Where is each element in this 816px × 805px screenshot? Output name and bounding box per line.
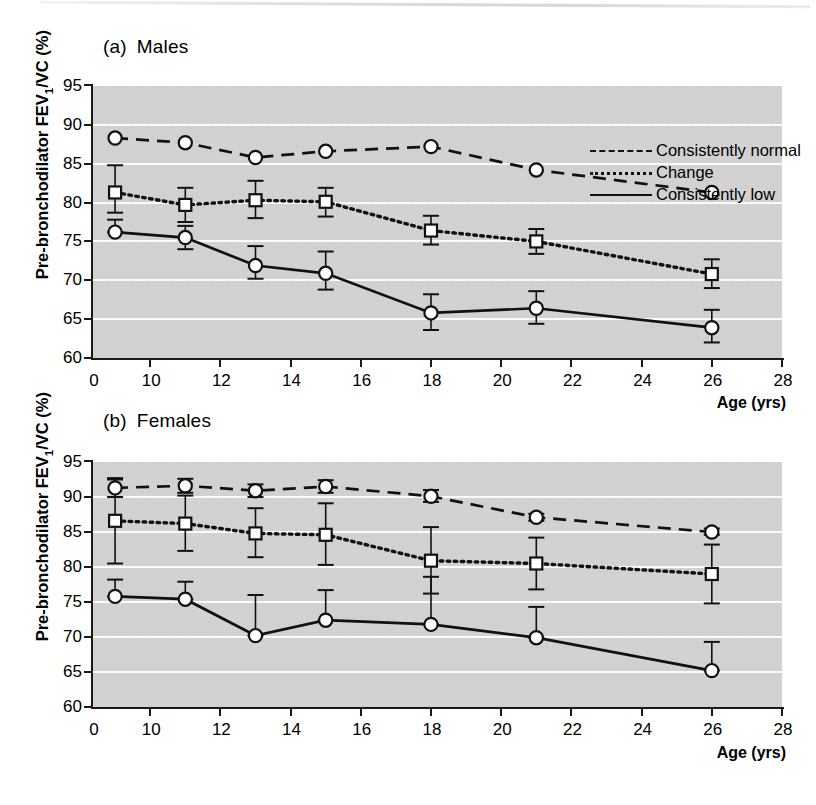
y-axis-tick-label: 60 bbox=[44, 698, 82, 715]
panel-b-x-axis-label: Age (yrs) bbox=[717, 744, 786, 762]
data-point-marker bbox=[424, 490, 437, 503]
x-axis-tick-label: 22 bbox=[552, 721, 592, 738]
legend-entry-consistently-low: Consistently low bbox=[590, 184, 801, 206]
y-axis-tick bbox=[84, 202, 92, 204]
data-point-marker bbox=[109, 186, 121, 198]
panel-b-name: Females bbox=[137, 410, 211, 431]
x-axis-tick-label: 10 bbox=[131, 721, 171, 738]
x-axis-tick bbox=[570, 359, 572, 367]
panel-b-x-axis-line bbox=[91, 707, 784, 709]
data-point-marker bbox=[530, 558, 542, 570]
y-axis-tick bbox=[84, 636, 92, 638]
series-line bbox=[115, 521, 712, 574]
x-axis-tick bbox=[711, 708, 713, 716]
x-axis-tick-label: 14 bbox=[272, 721, 312, 738]
x-axis-tick bbox=[149, 359, 151, 367]
data-point-marker bbox=[249, 194, 261, 206]
x-axis-tick-label: 26 bbox=[693, 372, 733, 389]
data-point-marker bbox=[109, 515, 121, 527]
data-point-marker bbox=[319, 267, 332, 280]
data-point-marker bbox=[425, 225, 437, 237]
data-point-marker bbox=[249, 629, 262, 642]
series-line bbox=[115, 232, 712, 328]
legend-label: Consistently normal bbox=[656, 140, 801, 162]
data-point-marker bbox=[424, 306, 437, 319]
x-axis-tick bbox=[149, 708, 151, 716]
x-axis-tick-label: 24 bbox=[623, 372, 663, 389]
y-axis-tick bbox=[84, 566, 92, 568]
x-axis-tick-label: 14 bbox=[272, 372, 312, 389]
y-axis-tick bbox=[84, 240, 92, 242]
data-point-marker bbox=[108, 131, 121, 144]
data-point-marker bbox=[249, 259, 262, 272]
x-axis-tick bbox=[781, 359, 783, 367]
y-axis-tick bbox=[84, 601, 92, 603]
x-axis-tick bbox=[290, 359, 292, 367]
panel-b-data-series bbox=[93, 462, 782, 707]
legend-entry-consistently-normal: Consistently normal bbox=[590, 140, 801, 162]
y-axis-tick-label: 85 bbox=[44, 155, 82, 172]
panel-b-tag: (b) bbox=[103, 410, 127, 431]
legend-label: Change bbox=[656, 162, 714, 184]
y-axis-tick-label: 95 bbox=[44, 453, 82, 470]
x-axis-tick-label: 12 bbox=[201, 721, 241, 738]
data-point-marker bbox=[424, 140, 437, 153]
panel-a-y-axis-top-cap bbox=[84, 84, 93, 86]
panel-a-plot-area: 6065707580859095 010121416182022242628 C… bbox=[93, 86, 782, 358]
panel-b-y-axis-label: Pre-bronchodilator FEV1/VC (%) bbox=[33, 377, 54, 657]
panel-a-name: Males bbox=[137, 36, 189, 57]
x-axis-tick bbox=[360, 359, 362, 367]
data-point-marker bbox=[108, 481, 121, 494]
dotted-line-key-icon bbox=[590, 166, 652, 180]
panel-b-plot-area: 6065707580859095 010121416182022242628 bbox=[93, 462, 782, 707]
y-axis-tick-label: 90 bbox=[44, 488, 82, 505]
x-axis-tick-label: 18 bbox=[412, 372, 452, 389]
data-point-marker bbox=[530, 163, 543, 176]
y-axis-tick-label: 70 bbox=[44, 628, 82, 645]
x-axis-tick-label: 16 bbox=[342, 721, 382, 738]
data-point-marker bbox=[320, 196, 332, 208]
data-point-marker bbox=[249, 151, 262, 164]
panel-b-title: (b)Females bbox=[103, 410, 211, 432]
x-axis-tick-label: 26 bbox=[693, 721, 733, 738]
y-axis-tick bbox=[84, 124, 92, 126]
data-point-marker bbox=[179, 518, 191, 530]
y-axis-tick-label: 75 bbox=[44, 593, 82, 610]
y-axis-tick bbox=[84, 357, 92, 359]
series-line bbox=[115, 486, 712, 532]
panel-a-data-series bbox=[93, 86, 782, 358]
y-axis-tick-label: 95 bbox=[44, 77, 82, 94]
legend-entry-change: Change bbox=[590, 162, 801, 184]
x-axis-tick bbox=[219, 359, 221, 367]
data-point-marker bbox=[530, 631, 543, 644]
x-axis-tick bbox=[430, 708, 432, 716]
x-axis-tick-label: 18 bbox=[412, 721, 452, 738]
y-axis-tick bbox=[84, 706, 92, 708]
figure-two-panel-line-chart: (a)Males Pre-bronchodilator FEV1/VC (%) … bbox=[0, 0, 816, 805]
panel-a-title: (a)Males bbox=[103, 36, 189, 58]
panel-males: (a)Males Pre-bronchodilator FEV1/VC (%) … bbox=[0, 36, 816, 416]
x-axis-tick-label: 16 bbox=[342, 372, 382, 389]
x-axis-tick bbox=[781, 708, 783, 716]
data-point-marker bbox=[319, 480, 332, 493]
data-point-marker bbox=[108, 226, 121, 239]
x-axis-tick bbox=[219, 708, 221, 716]
data-point-marker bbox=[249, 527, 261, 539]
data-point-marker bbox=[706, 268, 718, 280]
x-axis-tick-label: 20 bbox=[482, 721, 522, 738]
series-line bbox=[115, 596, 712, 670]
x-axis-tick bbox=[430, 359, 432, 367]
legend: Consistently normal Change Consistently … bbox=[590, 140, 801, 206]
solid-line-key-icon bbox=[590, 188, 652, 202]
y-axis-tick-label: 80 bbox=[44, 558, 82, 575]
data-point-marker bbox=[705, 321, 718, 334]
data-point-marker bbox=[179, 199, 191, 211]
x-axis-tick-label: 28 bbox=[763, 372, 803, 389]
data-point-marker bbox=[319, 145, 332, 158]
panel-a-x-axis-line bbox=[91, 358, 784, 360]
y-axis-tick-label: 65 bbox=[44, 310, 82, 327]
data-point-marker bbox=[249, 484, 262, 497]
data-point-marker bbox=[705, 664, 718, 677]
data-point-marker bbox=[530, 235, 542, 247]
x-axis-tick-label: 20 bbox=[482, 372, 522, 389]
